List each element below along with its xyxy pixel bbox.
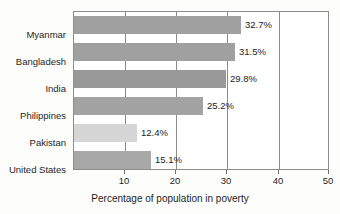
plot-inner: 32.7% 31.5% 29.8% 25.2% 12.4% 15.1%	[74, 12, 328, 169]
gridline-40	[279, 12, 280, 169]
xtick-label-30: 30	[221, 175, 232, 186]
gridline-20	[176, 12, 177, 169]
plot-area: 32.7% 31.5% 29.8% 25.2% 12.4% 15.1%	[73, 11, 329, 170]
xtick-label-20: 20	[170, 175, 181, 186]
xtick-mark-50	[328, 170, 329, 174]
bar-philippines	[74, 97, 203, 115]
bar-bangladesh	[74, 43, 235, 61]
category-label: Pakistan	[0, 138, 66, 148]
poverty-bar-chart: Myanmar Bangladesh India Philippines Pak…	[0, 0, 340, 214]
category-label: Philippines	[0, 111, 66, 121]
value-label-pakistan: 12.4%	[141, 128, 168, 138]
category-label: India	[0, 84, 66, 94]
xtick-mark-20	[175, 170, 176, 174]
value-label-india: 29.8%	[230, 74, 257, 84]
category-label: Myanmar	[0, 30, 66, 40]
x-axis-ticks: 10 20 30 40 50	[73, 170, 329, 192]
xtick-label-50: 50	[323, 175, 334, 186]
gridline-10	[125, 12, 126, 169]
bar-myanmar	[74, 16, 241, 34]
xtick-mark-30	[226, 170, 227, 174]
bar-india	[74, 70, 226, 88]
xtick-label-10: 10	[119, 175, 130, 186]
gridline-30	[227, 12, 228, 169]
xtick-label-40: 40	[273, 175, 284, 186]
category-axis-labels: Myanmar Bangladesh India Philippines Pak…	[0, 11, 70, 170]
value-label-myanmar: 32.7%	[245, 20, 272, 30]
bar-united-states	[74, 151, 151, 169]
category-label: Bangladesh	[0, 57, 66, 67]
bar-pakistan	[74, 124, 137, 142]
category-label: United States	[0, 165, 66, 175]
value-label-bangladesh: 31.5%	[239, 47, 266, 57]
xtick-mark-40	[278, 170, 279, 174]
x-axis-title: Percentage of population in poverty	[0, 193, 340, 205]
xtick-mark-10	[124, 170, 125, 174]
value-label-philippines: 25.2%	[207, 101, 234, 111]
value-label-united-states: 15.1%	[155, 155, 182, 165]
